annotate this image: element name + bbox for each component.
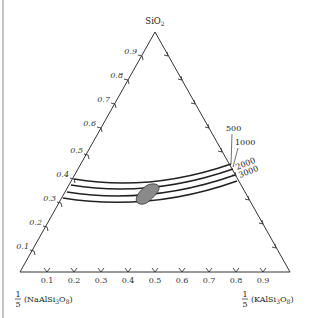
- svg-text:0.8: 0.8: [230, 276, 243, 285]
- svg-text:0.1: 0.1: [16, 242, 29, 251]
- svg-text:0.6: 0.6: [83, 119, 96, 128]
- curve-label-500: 500: [226, 124, 241, 133]
- bottom-axis-ticks: [44, 268, 266, 272]
- svg-text:0.7: 0.7: [97, 95, 111, 104]
- shaded-composition-region: [136, 184, 159, 204]
- curve-500: [74, 164, 231, 183]
- svg-text:1: 1: [15, 290, 20, 299]
- svg-text:(NaAlSi3O8): (NaAlSi3O8): [24, 295, 73, 305]
- svg-text:0.3: 0.3: [95, 276, 108, 285]
- curve-label-1000: 1000: [235, 138, 255, 147]
- svg-text:0.5: 0.5: [70, 146, 83, 155]
- left-axis-labels: 0.1 0.2 0.3 0.4 0.5 0.6 0.7 0.8 0.9: [16, 47, 137, 251]
- svg-text:0.4: 0.4: [56, 170, 69, 179]
- svg-text:5: 5: [242, 300, 247, 309]
- svg-text:0.9: 0.9: [124, 47, 137, 56]
- right-axis-ticks: [164, 52, 276, 248]
- ternary-triangle: [20, 32, 290, 272]
- vertex-label-naalsi3o8: 1 5 (NaAlSi3O8): [15, 290, 73, 309]
- svg-text:0.3: 0.3: [43, 194, 56, 203]
- svg-text:0.8: 0.8: [110, 71, 123, 80]
- svg-text:1: 1: [242, 290, 247, 299]
- bottom-axis-labels: 0.1 0.2 0.3 0.4 0.5 0.6 0.7 0.8 0.9: [41, 276, 270, 285]
- svg-text:0.4: 0.4: [122, 276, 135, 285]
- svg-text:0.2: 0.2: [68, 276, 81, 285]
- svg-text:5: 5: [15, 300, 20, 309]
- svg-text:0.9: 0.9: [257, 276, 270, 285]
- svg-text:0.2: 0.2: [29, 218, 42, 227]
- svg-text:(KAlSi3O8): (KAlSi3O8): [251, 295, 294, 305]
- vertex-label-sio2: SiO2: [145, 16, 165, 27]
- svg-text:0.6: 0.6: [176, 276, 189, 285]
- svg-text:0.7: 0.7: [203, 276, 216, 285]
- svg-text:0.1: 0.1: [41, 276, 54, 285]
- ternary-diagram: SiO2 0.1 0.2 0.3 0.4 0.5 0.6 0.7 0.8 0.9: [0, 0, 313, 318]
- svg-text:0.5: 0.5: [149, 276, 162, 285]
- vertex-label-kalsi3o8: 1 5 (KAlSi3O8): [242, 290, 294, 309]
